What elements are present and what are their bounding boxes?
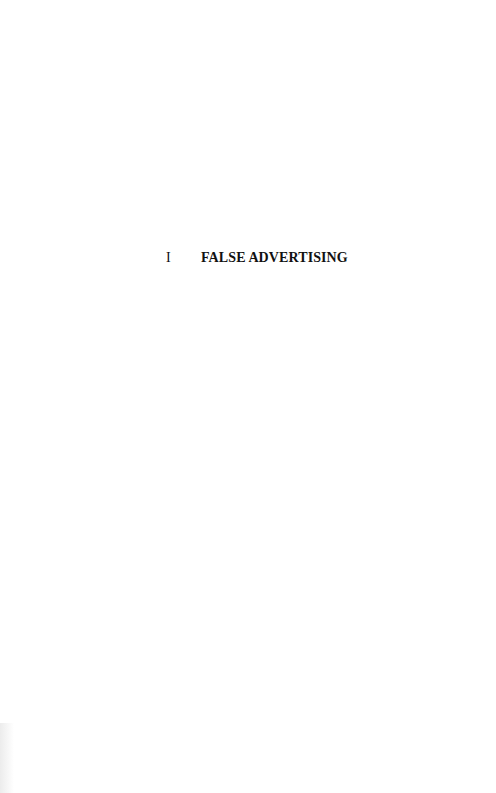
chapter-heading: I FALSE ADVERTISING <box>166 249 348 267</box>
chapter-title: FALSE ADVERTISING <box>201 249 348 267</box>
scan-edge-shadow <box>0 723 14 793</box>
document-page: I FALSE ADVERTISING <box>0 0 496 793</box>
chapter-number: I <box>166 249 201 267</box>
